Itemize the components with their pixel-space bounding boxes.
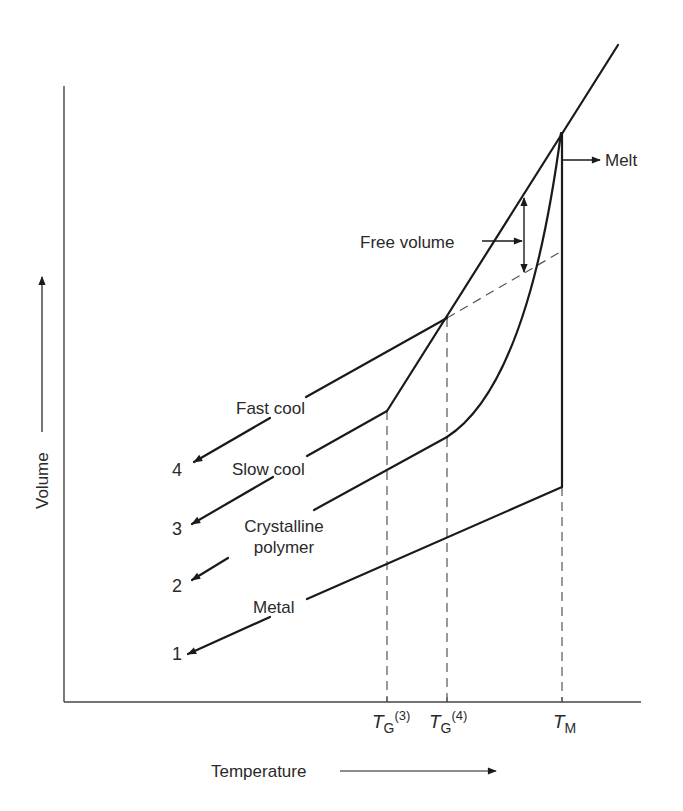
diagram-canvas: Melt Free volume Fast cool Slow cool Cry… [0,0,683,811]
tick-tm: TM [553,712,576,731]
fast-cool-lower [194,418,270,462]
fast-cool-upper [306,318,447,397]
tick-tg3: TG(3) [372,712,410,731]
curve-number-2: 2 [172,577,182,595]
crystalline-label-line2: polymer [234,539,334,556]
curve-number-1: 1 [172,645,182,663]
tick-tg4: TG(4) [429,712,467,731]
metal-upper [307,487,562,599]
free-volume-label: Free volume [360,234,454,251]
crystalline-upper [314,437,447,510]
curves [188,45,618,654]
fast-cool-label: Fast cool [236,400,305,417]
x-axis-label: Temperature [211,763,306,780]
curve-number-3: 3 [172,520,182,538]
melt-label: Melt [605,152,637,169]
slow-cool-label: Slow cool [232,461,305,478]
slow-cool-upper [307,411,387,456]
diagram-graphics [0,0,683,811]
crystalline-lower [192,558,228,580]
metal-lower [188,617,270,654]
y-axis-label: Volume [34,452,51,509]
dashed-guides [387,251,562,702]
curve-number-4: 4 [172,461,182,479]
crystalline-polymer-label: Crystalline polymer [234,518,334,556]
crystalline-label-line1: Crystalline [234,518,334,535]
metal-label: Metal [253,599,295,616]
extrapolated-liquid-line [447,251,562,318]
liquid-line [387,45,618,411]
